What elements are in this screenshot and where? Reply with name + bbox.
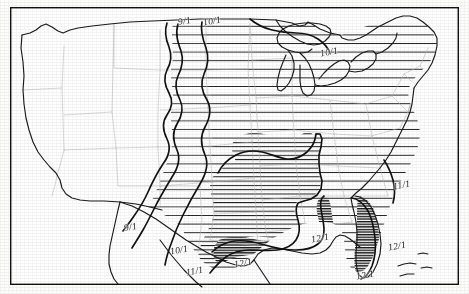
freeze-date-map: 9/110/110/19/110/111/112/112/111/112/112… [0,0,469,294]
